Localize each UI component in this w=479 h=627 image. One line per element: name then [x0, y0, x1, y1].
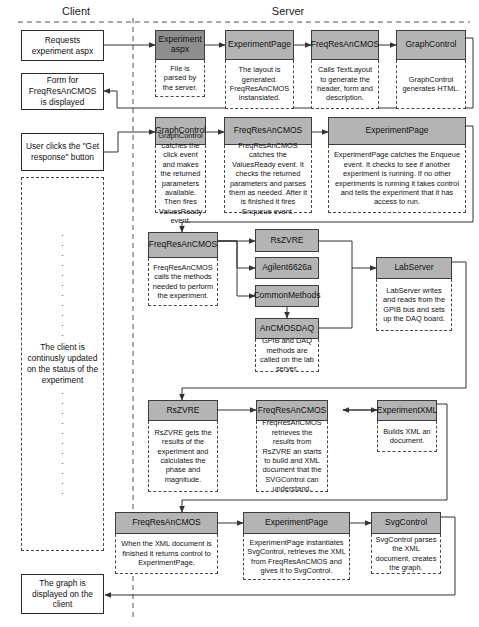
node-note-experimentpage-3: ExperimentPage instantiates SvgControl, … — [243, 534, 350, 580]
lane-title-client: Client — [36, 5, 116, 17]
node-title-freqresancmos-1: FreqResAnCMOS — [311, 30, 379, 60]
node-title-experimentxml: ExperimentXML — [377, 400, 437, 421]
node-ancmosdaq[interactable]: AnCMOSDAQ GPIB and DAQ methods are calle… — [255, 318, 319, 372]
client-box-user-clicks[interactable]: User clicks the "Get response" button — [21, 133, 104, 171]
wire-freq3-to-commonmethods — [218, 241, 255, 296]
wire-rszvre1-to-labserver — [319, 241, 376, 268]
node-experimentxml[interactable]: ExperimentXML Builds XML an document. — [377, 400, 437, 452]
node-note-freqresancmos-1: Calls TextLayout to generate the header,… — [311, 60, 379, 109]
node-freqresancmos-3[interactable]: FreqResAnCMOS FreqResAnCMOS calls the me… — [148, 232, 218, 306]
node-title-commonmethods: CommonMethods — [255, 285, 319, 307]
client-box-graph-displayed[interactable]: The graph is displayed on the client — [21, 574, 104, 614]
status-dots-below: ····· ······ — [61, 388, 64, 498]
node-svgcontrol[interactable]: SvgControl SvgControl parses the XML doc… — [371, 512, 441, 574]
status-dots-above: ····· ······ — [61, 230, 64, 340]
node-title-experimentpage-1: ExperimentPage — [225, 30, 294, 60]
node-commonmethods[interactable]: CommonMethods — [255, 285, 319, 307]
client-box-form-displayed[interactable]: Form for FreqResAnCMOS is displayed — [21, 73, 104, 110]
node-title-labserver: LabServer — [376, 257, 452, 279]
node-rszvre-1[interactable]: RsZVRE — [255, 229, 319, 252]
node-rszvre-2[interactable]: RsZVRE RsZVRE gets the results of the ex… — [148, 400, 218, 492]
node-graphcontrol-2[interactable]: GraphControl GraphControl catches the cl… — [155, 117, 206, 213]
node-note-freqresancmos-3: FreqResAnCMOS calls the methods needed t… — [148, 258, 218, 306]
node-title-freqresancmos-3: FreqResAnCMOS — [148, 232, 218, 258]
node-freqresancmos-4[interactable]: FreqResAnCMOS FreqResAnCMOS retrieves th… — [256, 400, 328, 492]
node-note-freqresancmos-2: FreqResAnCMOS catches the ValuesReady ev… — [224, 145, 312, 213]
node-title-freqresancmos-5: FreqResAnCMOS — [115, 512, 218, 534]
node-note-experimentpage-1: The layout is generated. FreqResAnCMOS i… — [225, 60, 294, 109]
node-note-experimentxml: Builds XML an document. — [377, 421, 437, 452]
node-title-agilent: Agilent6626a — [255, 257, 319, 279]
lane-title-server: Server — [248, 5, 328, 17]
node-freqresancmos-5[interactable]: FreqResAnCMOS When the XML document is f… — [115, 512, 218, 574]
node-note-graphcontrol-2: GraphControl catches the click event and… — [155, 145, 206, 213]
client-status-text: The client is continusly updated on the … — [22, 340, 103, 388]
client-box-requests[interactable]: Requests experiment aspx — [21, 30, 104, 61]
wire-daq-to-labserver — [319, 268, 352, 328]
node-note-rszvre-2: RsZVRE gets the results of the experimen… — [148, 421, 218, 492]
flow-diagram: Client Server Requests experiment aspx F… — [0, 0, 479, 627]
node-note-freqresancmos-4: FreqResAnCMOS retrieves the results from… — [256, 421, 328, 492]
node-freqresancmos-1[interactable]: FreqResAnCMOS Calls TextLayout to genera… — [311, 30, 379, 109]
node-title-experimentpage-3: ExperimentPage — [243, 512, 350, 534]
node-title-rszvre-2: RsZVRE — [148, 400, 218, 421]
node-title-experiment-aspx: Experiment aspx — [155, 30, 205, 60]
node-labserver[interactable]: LabServer LabServer writes and reads fro… — [376, 257, 452, 331]
node-experiment-aspx[interactable]: Experiment aspx File is parsed by the se… — [155, 30, 205, 97]
node-experimentpage-2[interactable]: ExperimentPage ExperimentPage catches th… — [328, 117, 466, 213]
node-agilent[interactable]: Agilent6626a — [255, 257, 319, 279]
node-note-experimentpage-2: ExperimentPage catches the Enqueue event… — [328, 145, 466, 213]
node-note-freqresancmos-5: When the XML document is finished it ret… — [115, 534, 218, 574]
node-note-svgcontrol: SvgControl parses the XML document, crea… — [371, 534, 441, 574]
node-freqresancmos-2[interactable]: FreqResAnCMOS FreqResAnCMOS catches the … — [224, 117, 312, 213]
node-title-rszvre-1: RsZVRE — [255, 229, 319, 252]
node-title-svgcontrol: SvgControl — [371, 512, 441, 534]
node-experimentpage-1[interactable]: ExperimentPage The layout is generated. … — [225, 30, 294, 109]
node-title-graphcontrol-1: GraphControl — [396, 30, 466, 60]
node-note-experiment-aspx: File is parsed by the server. — [155, 60, 205, 97]
wire-freq3-to-agilent — [218, 241, 255, 268]
node-experimentpage-3[interactable]: ExperimentPage ExperimentPage instantiat… — [243, 512, 350, 580]
node-note-labserver: LabServer writes and reads from the GPIB… — [376, 279, 452, 331]
node-note-ancmosdaq: GPIB and DAQ methods are called on the l… — [255, 339, 319, 372]
node-note-graphcontrol-1: GraphControl generates HTML. — [396, 60, 466, 109]
wire-userclick-to-graph2 — [104, 132, 155, 152]
node-graphcontrol-1[interactable]: GraphControl GraphControl generates HTML… — [396, 30, 466, 109]
node-title-experimentpage-2: ExperimentPage — [328, 117, 466, 145]
client-status-region: ····· ······ The client is continusly up… — [21, 177, 104, 551]
